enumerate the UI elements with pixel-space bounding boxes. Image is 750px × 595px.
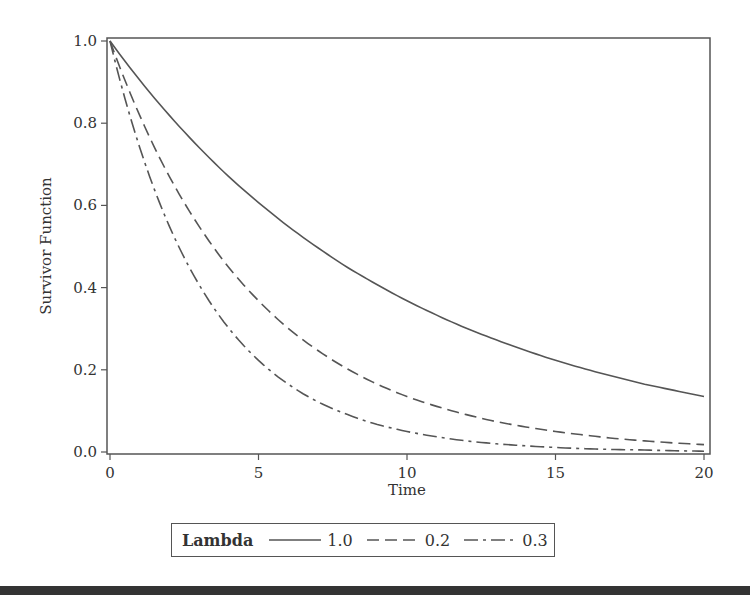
- legend-label: 0.3: [522, 531, 547, 550]
- y-axis: 0.00.20.40.60.81.0: [73, 32, 107, 461]
- x-tick-label: 5: [254, 464, 264, 482]
- survivor-function-chart: 0.00.20.40.60.81.0 05101520 Time Survivo…: [0, 0, 750, 595]
- legend-entry-1: 1.0: [267, 531, 352, 550]
- legend-title: Lambda: [182, 531, 253, 550]
- y-tick-label: 0.4: [73, 279, 97, 297]
- dashed-line-icon: [365, 535, 421, 545]
- legend-entry-3: 0.3: [462, 531, 547, 550]
- legend-label: 1.0: [327, 531, 352, 550]
- x-tick-label: 10: [397, 464, 416, 482]
- plot-curves: [110, 41, 704, 451]
- curve-lambda-0.2: [110, 41, 704, 445]
- legend-entry-2: 0.2: [365, 531, 450, 550]
- x-tick-label: 20: [694, 464, 713, 482]
- plot-frame: [107, 38, 710, 454]
- x-axis-label: Time: [388, 481, 426, 499]
- x-tick-label: 15: [546, 464, 565, 482]
- legend: Lambda 1.0 0.2 0.3: [171, 523, 555, 557]
- y-tick-label: 0.2: [73, 361, 97, 379]
- x-axis: 05101520: [105, 454, 713, 482]
- y-tick-label: 0.0: [73, 443, 97, 461]
- y-tick-label: 0.6: [73, 196, 97, 214]
- y-axis-label: Survivor Function: [37, 177, 55, 315]
- x-tick-label: 0: [105, 464, 115, 482]
- dash-dot-line-icon: [462, 535, 518, 545]
- solid-line-icon: [267, 535, 323, 545]
- y-tick-label: 0.8: [73, 114, 97, 132]
- curve-lambda-1.0: [110, 41, 704, 397]
- legend-label: 0.2: [425, 531, 450, 550]
- curve-lambda-0.3: [110, 41, 704, 451]
- y-tick-label: 1.0: [73, 32, 97, 50]
- footer-bar: [0, 586, 750, 595]
